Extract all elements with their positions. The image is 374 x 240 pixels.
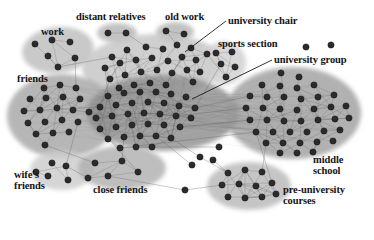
graph-node[interactable] (168, 135, 174, 141)
graph-node[interactable] (63, 163, 69, 169)
graph-node[interactable] (70, 107, 76, 113)
graph-node[interactable] (102, 65, 108, 71)
graph-node[interactable] (67, 39, 73, 45)
graph-node[interactable] (311, 82, 317, 88)
graph-node[interactable] (337, 127, 343, 133)
graph-node[interactable] (77, 96, 83, 102)
graph-node[interactable] (161, 122, 167, 128)
graph-node[interactable] (213, 50, 219, 56)
graph-node[interactable] (27, 96, 33, 102)
graph-node[interactable] (242, 195, 248, 201)
graph-node[interactable] (173, 113, 179, 119)
graph-node[interactable] (73, 85, 79, 91)
graph-node[interactable] (331, 92, 337, 98)
graph-node[interactable] (149, 55, 155, 61)
graph-node[interactable] (129, 122, 135, 128)
graph-node[interactable] (277, 106, 283, 112)
graph-node[interactable] (75, 119, 81, 125)
graph-node[interactable] (121, 134, 127, 140)
graph-node[interactable] (149, 144, 155, 150)
graph-node[interactable] (294, 150, 300, 156)
graph-node[interactable] (179, 54, 185, 60)
graph-node[interactable] (157, 111, 163, 117)
graph-node[interactable] (93, 115, 99, 121)
graph-node[interactable] (113, 102, 119, 108)
graph-node[interactable] (304, 129, 310, 135)
graph-node[interactable] (49, 160, 55, 166)
graph-node[interactable] (72, 55, 78, 61)
graph-node[interactable] (137, 89, 143, 95)
graph-node[interactable] (105, 173, 111, 179)
graph-node[interactable] (32, 41, 38, 47)
graph-node[interactable] (145, 99, 151, 105)
graph-node[interactable] (281, 118, 287, 124)
graph-node[interactable] (165, 58, 171, 64)
graph-node[interactable] (37, 107, 43, 113)
graph-node[interactable] (182, 187, 188, 193)
graph-node[interactable] (169, 70, 175, 76)
graph-node[interactable] (109, 113, 115, 119)
graph-node[interactable] (253, 183, 259, 189)
graph-node[interactable] (129, 100, 135, 106)
graph-node[interactable] (269, 180, 275, 186)
graph-node[interactable] (190, 79, 196, 85)
graph-node[interactable] (145, 121, 151, 127)
graph-node[interactable] (270, 129, 276, 135)
graph-node[interactable] (163, 82, 169, 88)
graph-node[interactable] (197, 69, 203, 75)
graph-node[interactable] (294, 107, 300, 113)
graph-node[interactable] (225, 170, 231, 176)
graph-node[interactable] (143, 44, 149, 50)
graph-node[interactable] (223, 74, 229, 80)
graph-node[interactable] (85, 175, 91, 181)
graph-node[interactable] (174, 42, 180, 48)
graph-node[interactable] (328, 42, 334, 48)
graph-node[interactable] (259, 169, 265, 175)
graph-node[interactable] (109, 54, 115, 60)
graph-node[interactable] (278, 70, 284, 76)
graph-node[interactable] (137, 133, 143, 139)
graph-node[interactable] (168, 91, 174, 97)
graph-node[interactable] (21, 108, 27, 114)
graph-node[interactable] (263, 140, 269, 146)
graph-node[interactable] (123, 30, 129, 36)
graph-node[interactable] (294, 85, 300, 91)
graph-node[interactable] (232, 64, 238, 70)
graph-node[interactable] (315, 117, 321, 123)
graph-node[interactable] (113, 124, 119, 130)
graph-node[interactable] (297, 140, 303, 146)
graph-node[interactable] (181, 31, 187, 37)
graph-node[interactable] (328, 104, 334, 110)
graph-node[interactable] (43, 95, 49, 101)
graph-node[interactable] (135, 169, 141, 175)
graph-node[interactable] (153, 133, 159, 139)
graph-node[interactable] (277, 83, 283, 89)
graph-node[interactable] (315, 94, 321, 100)
graph-node[interactable] (97, 126, 103, 132)
graph-node[interactable] (298, 96, 304, 102)
graph-node[interactable] (303, 44, 309, 50)
graph-node[interactable] (236, 181, 242, 187)
graph-node[interactable] (141, 110, 147, 116)
graph-node[interactable] (264, 94, 270, 100)
graph-node[interactable] (119, 158, 125, 164)
graph-node[interactable] (176, 103, 182, 109)
graph-node[interactable] (218, 61, 224, 67)
graph-node[interactable] (133, 57, 139, 63)
graph-node[interactable] (57, 82, 63, 88)
graph-node[interactable] (60, 94, 66, 100)
graph-node[interactable] (121, 90, 127, 96)
graph-node[interactable] (243, 105, 249, 111)
graph-node[interactable] (160, 46, 166, 52)
graph-node[interactable] (66, 129, 72, 135)
graph-node[interactable] (280, 140, 286, 146)
graph-node[interactable] (45, 53, 51, 59)
graph-node[interactable] (184, 67, 190, 73)
graph-node[interactable] (147, 80, 153, 86)
graph-node[interactable] (260, 105, 266, 111)
graph-node[interactable] (107, 76, 113, 82)
graph-node[interactable] (59, 117, 65, 123)
graph-node[interactable] (124, 47, 130, 53)
graph-node[interactable] (253, 129, 259, 135)
graph-node[interactable] (55, 64, 61, 70)
